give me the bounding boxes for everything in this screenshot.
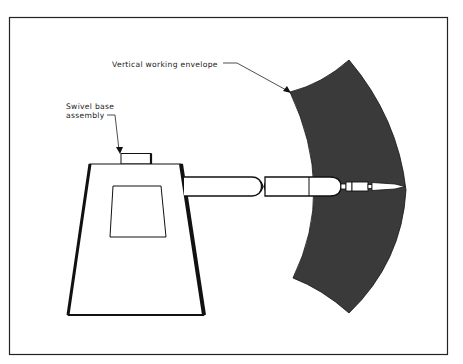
swivel-leader-line bbox=[107, 115, 119, 150]
swivel-base-block bbox=[121, 154, 151, 165]
upper-arm bbox=[184, 177, 263, 196]
wrist-neck bbox=[341, 184, 346, 189]
swivel-arrowhead-icon bbox=[116, 147, 123, 154]
tool-neck bbox=[368, 185, 372, 189]
base-window bbox=[110, 186, 166, 237]
robot-diagram: Vertical working envelope Swivel base as… bbox=[0, 0, 463, 364]
swivel-label-line1: Swivel base bbox=[66, 102, 114, 111]
wrist-block bbox=[346, 182, 352, 191]
envelope-arrowhead-icon bbox=[283, 86, 291, 93]
wrist-cylinder bbox=[352, 182, 368, 191]
envelope-leader-line bbox=[223, 63, 288, 91]
swivel-label-line2: assembly bbox=[66, 111, 105, 120]
envelope-label: Vertical working envelope bbox=[112, 60, 218, 69]
forearm bbox=[265, 177, 341, 196]
